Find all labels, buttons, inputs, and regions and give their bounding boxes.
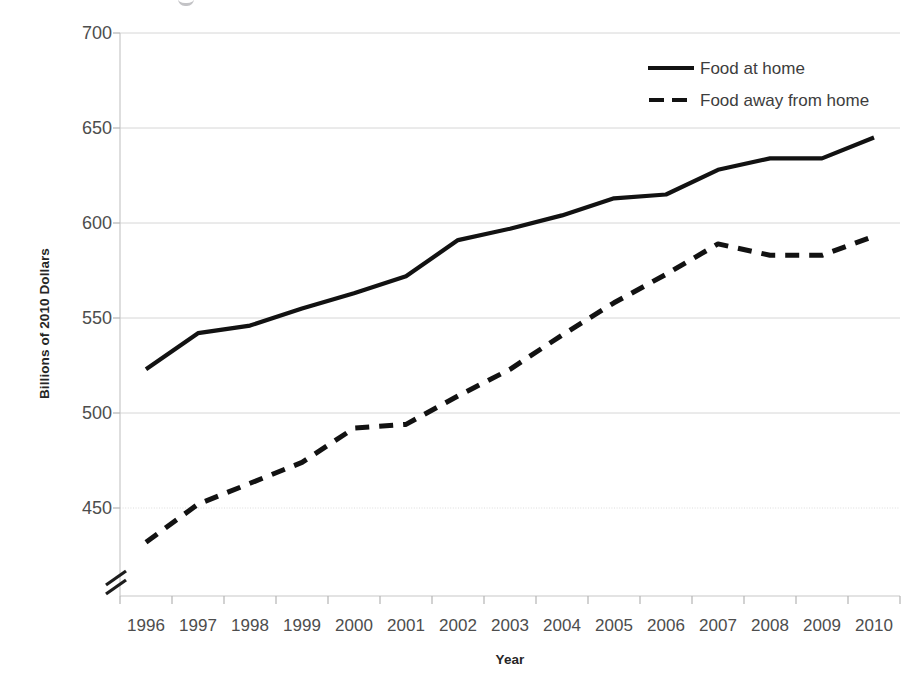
series-line-food-away-from-home <box>146 236 874 542</box>
chart-container: Billions of 2010 Dollars Year 4505005506… <box>0 0 921 689</box>
legend-dashed-line-icon <box>648 93 694 107</box>
legend-label-food-away-from-home: Food away from home <box>700 92 869 109</box>
legend-solid-line-icon <box>648 61 694 75</box>
legend-label-food-at-home: Food at home <box>700 60 805 77</box>
chart-legend: Food at home Food away from home <box>648 52 898 116</box>
legend-item-food-away-from-home[interactable]: Food away from home <box>648 84 898 116</box>
legend-item-food-at-home[interactable]: Food at home <box>648 52 898 84</box>
